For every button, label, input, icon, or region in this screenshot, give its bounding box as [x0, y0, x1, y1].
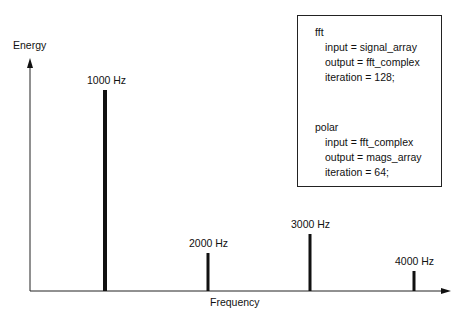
y-axis-label: Energy [13, 39, 46, 51]
fft-input-line: input = signal_array [315, 40, 420, 55]
peak-bar-2 [207, 253, 210, 291]
y-axis-arrow-icon [27, 58, 33, 68]
polar-input-line: input = fft_complex [315, 135, 422, 150]
polar-block: polar input = fft_complex output = mags_… [315, 120, 422, 180]
fft-block: fft input = signal_array output = fft_co… [315, 25, 420, 85]
polar-block-name: polar [315, 120, 422, 135]
peak-label-2000: 2000 Hz [189, 237, 228, 249]
peak-label-3000: 3000 Hz [291, 218, 330, 230]
x-axis-arrow-icon [441, 288, 451, 294]
peak-label-4000: 4000 Hz [395, 255, 434, 267]
x-axis-label: Frequency [210, 296, 260, 308]
fft-output-line: output = fft_complex [315, 55, 420, 70]
peak-label-1000: 1000 Hz [87, 74, 126, 86]
peak-bar-1 [103, 90, 107, 291]
polar-output-line: output = mags_array [315, 150, 422, 165]
fft-iteration-line: iteration = 128; [315, 70, 420, 85]
peak-bar-4 [413, 271, 416, 291]
polar-iteration-line: iteration = 64; [315, 165, 422, 180]
fft-block-name: fft [315, 25, 420, 40]
code-box: fft input = signal_array output = fft_co… [297, 15, 442, 187]
peak-bar-3 [309, 234, 312, 291]
